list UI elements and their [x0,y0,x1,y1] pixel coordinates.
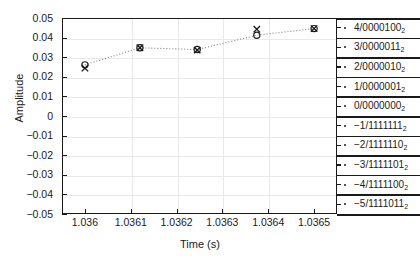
y-axis-tick [62,18,67,19]
y-axis-tick-label: 0.01 [33,91,53,102]
quantization-tick-dash [337,145,341,146]
y-axis-tick [62,155,67,156]
y-axis-tick-label: −0.02 [26,150,53,161]
quantization-level-line [337,18,420,20]
y-axis-tick-label: 0.04 [33,32,53,43]
y-axis-tick [62,38,67,39]
y-axis-tick-label: 0.03 [33,52,53,63]
quantization-level-line [337,155,420,157]
y-axis-title: Amplitude [13,38,25,158]
quantization-tick-dash [337,27,341,28]
quantization-level-line [337,175,420,177]
quantization-level-line [337,38,420,40]
quantization-level-label: 2/00000102 [354,62,405,72]
quantization-level-label: −3/11111012 [354,160,408,170]
data-point-cross [137,45,143,51]
quantization-level-line [337,77,420,79]
y-axis-tick [62,77,67,78]
quantization-level-label: −1/11111112 [354,121,407,131]
y-axis-tick [62,136,67,137]
x-axis-tick [268,209,269,214]
quantization-tick-dot [344,164,346,166]
data-point-cross [254,26,260,32]
y-axis-tick-label: 0 [47,111,53,122]
data-series-layer [62,18,337,214]
quantization-level-label: −2/11111102 [354,140,407,150]
quantization-tick-dot [344,203,346,205]
y-axis-tick-label: 0.05 [33,13,53,24]
quantization-tick-dash [337,204,341,205]
quantization-level-label: 1/00000012 [354,82,405,92]
quantization-level-line [337,57,420,59]
quantization-level-line [337,116,420,118]
quantization-level-label: −5/11110112 [354,199,408,209]
quantization-level-label: 4/00001002 [354,23,405,33]
quantization-tick-dash [337,47,341,48]
quantization-tick-dot [344,144,346,146]
x-axis-tick [222,209,223,214]
x-axis-tick [85,209,86,214]
y-axis-tick [62,96,67,97]
data-point-circle [82,62,88,68]
quantization-tick-dot [344,86,346,88]
y-axis-tick [62,175,67,176]
quantization-tick-dash [337,184,341,185]
chart-figure: 0.050.040.030.020.010−0.01−0.02−0.03−0.0… [0,0,420,262]
quantization-tick-dot [344,105,346,107]
y-axis-tick-label: −0.01 [26,130,53,141]
quantization-level-line [337,194,420,196]
y-axis-tick-label: 0.02 [33,71,53,82]
x-axis-tick [131,209,132,214]
quantization-tick-dash [337,66,341,67]
quantization-tick-dash [337,86,341,87]
quantization-level-panel: 4/000010023/000001122/000001021/00000012… [337,18,420,214]
quantization-level-label: 0/00000002 [354,101,405,111]
quantization-tick-dash [337,125,341,126]
quantization-tick-dot [344,46,346,48]
y-axis-tick-label: −0.03 [26,169,53,180]
x-axis-tick [314,209,315,214]
quantization-level-line [337,96,420,98]
x-axis-tick [177,209,178,214]
x-axis-title: Time (s) [0,238,400,250]
quantization-level-label: −4/11111002 [354,180,408,190]
y-axis-tick [62,57,67,58]
quantization-level-line [337,136,420,138]
y-axis-tick-label: −0.04 [26,189,53,200]
y-axis-tick [62,214,67,215]
y-axis-tick [62,194,67,195]
y-axis-tick [62,116,67,117]
quantization-level-label: 3/00000112 [354,42,404,52]
quantization-tick-dash [337,164,341,165]
quantization-tick-dot [344,184,346,186]
quantization-level-line [337,214,420,216]
x-axis-tick-label: 1.0365 [284,217,344,228]
y-axis-tick-label: −0.05 [26,209,53,220]
quantization-tick-dot [344,66,346,68]
quantization-tick-dash [337,106,341,107]
data-point-cross [82,65,88,71]
quantization-tick-dot [344,27,346,29]
quantization-tick-dot [344,125,346,127]
